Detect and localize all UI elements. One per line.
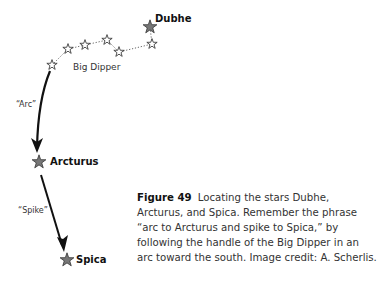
arcturus-star-icon xyxy=(32,155,46,168)
star-icon xyxy=(114,47,124,57)
star-icon xyxy=(47,60,57,70)
arcturus-label: Arcturus xyxy=(50,156,99,167)
figure-caption: Figure 49Locating the stars Dubhe, Arctu… xyxy=(137,190,377,265)
figure-label: Figure 49 xyxy=(137,192,192,203)
spike-arrowhead xyxy=(57,235,68,252)
spica-star-icon xyxy=(60,253,74,266)
arc-arrow xyxy=(37,71,50,148)
big-dipper-label: Big Dipper xyxy=(73,62,120,72)
star-icon xyxy=(80,40,90,50)
star-icon xyxy=(63,44,73,54)
star-icon xyxy=(102,35,112,45)
spike-label: “Spike” xyxy=(18,206,48,215)
spica-label: Spica xyxy=(76,254,106,265)
dubhe-label: Dubhe xyxy=(155,13,191,24)
arc-label: “Arc” xyxy=(16,100,36,109)
star-icon xyxy=(147,39,157,49)
